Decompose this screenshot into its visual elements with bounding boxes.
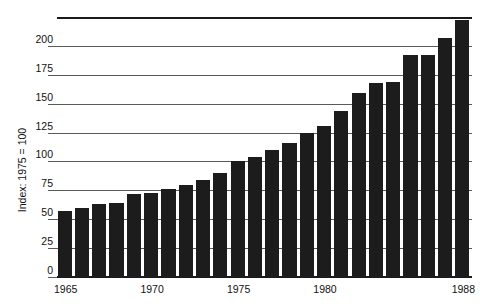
y-axis-tick-mark bbox=[48, 190, 57, 191]
bar bbox=[248, 157, 262, 277]
bar bbox=[386, 82, 400, 277]
bar bbox=[92, 204, 106, 277]
bar bbox=[317, 126, 331, 277]
bar bbox=[455, 20, 469, 277]
chart-top-rule bbox=[57, 17, 472, 19]
bar bbox=[109, 203, 123, 277]
x-axis-tick-label: 1970 bbox=[132, 283, 172, 295]
bar bbox=[282, 143, 296, 277]
y-axis-tick-mark bbox=[48, 161, 57, 162]
bar bbox=[144, 193, 158, 277]
y-axis-tick-mark bbox=[48, 248, 57, 249]
y-axis-tick-label: 200 bbox=[7, 33, 53, 45]
bar bbox=[179, 185, 193, 277]
y-axis-tick-mark bbox=[48, 277, 57, 278]
plot-area bbox=[57, 17, 472, 277]
bar bbox=[196, 180, 210, 277]
bar bbox=[352, 93, 366, 277]
bar bbox=[369, 83, 383, 277]
bar bbox=[161, 189, 175, 277]
bar bbox=[213, 173, 227, 277]
x-axis-tick-label: 1980 bbox=[305, 283, 345, 295]
y-axis-tick-mark bbox=[48, 104, 57, 105]
y-axis-tick-label: 175 bbox=[7, 62, 53, 74]
bar bbox=[421, 55, 435, 277]
bar bbox=[58, 211, 72, 277]
x-axis-tick-label: 1975 bbox=[219, 283, 259, 295]
y-axis-tick-label: 100 bbox=[7, 148, 53, 160]
y-axis-tick-mark bbox=[48, 219, 57, 220]
gridline bbox=[57, 46, 472, 47]
y-axis-tick-label: 150 bbox=[7, 91, 53, 103]
bar bbox=[403, 55, 417, 277]
y-axis-tick-mark bbox=[48, 133, 57, 134]
y-axis-tick-mark bbox=[48, 46, 57, 47]
bar-chart: Index: 1975 = 100 0255075100125150175200… bbox=[0, 0, 480, 308]
bar bbox=[334, 111, 348, 277]
x-axis-tick-label: 1988 bbox=[443, 283, 480, 295]
bar bbox=[231, 161, 245, 277]
y-axis-tick-label: 125 bbox=[7, 120, 53, 132]
y-axis-tick-label: 25 bbox=[7, 235, 53, 247]
bar bbox=[300, 133, 314, 277]
x-axis-tick-label: 1965 bbox=[46, 283, 86, 295]
y-axis-tick-label: 50 bbox=[7, 206, 53, 218]
y-axis-tick-mark bbox=[48, 75, 57, 76]
bar bbox=[265, 150, 279, 277]
bar bbox=[438, 38, 452, 277]
y-axis-tick-label: 75 bbox=[7, 177, 53, 189]
bar bbox=[75, 208, 89, 277]
bar bbox=[127, 194, 141, 277]
y-axis-tick-label: 0 bbox=[7, 264, 53, 276]
